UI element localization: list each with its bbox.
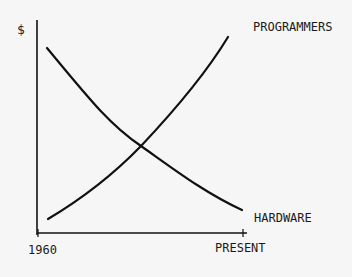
x-start-label: 1960 (28, 243, 57, 257)
y-axis-label: $ (17, 22, 25, 37)
hardware-label: HARDWARE (254, 211, 312, 225)
chart-canvas (0, 0, 352, 277)
x-end-label: PRESENT (215, 241, 266, 255)
programmers-curve (48, 37, 228, 219)
programmers-label: PROGRAMMERS (253, 20, 332, 34)
hardware-curve (47, 48, 242, 210)
